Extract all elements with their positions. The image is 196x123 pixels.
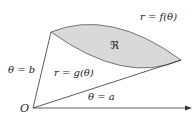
inner-curve-label: r = g(θ) [54,68,94,78]
region-label: ℜ [110,40,119,51]
ray-b-label: θ = b [8,65,35,75]
origin-label: O [20,103,29,114]
outer-curve-label: r = f(θ) [140,12,177,22]
ray-theta-b [33,32,51,108]
ray-a-label: θ = a [88,92,115,102]
polar-region-diagram: r = f(θ) ℜ θ = b r = g(θ) θ = a O [0,0,196,123]
axis-arrowhead-icon [185,106,192,111]
